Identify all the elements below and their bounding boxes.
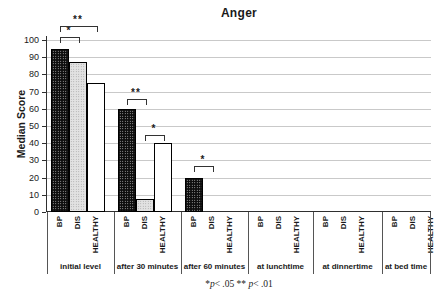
x-series-label: HEALTHY: [90, 216, 102, 262]
x-series-label: HEALTHY: [356, 216, 368, 262]
category-label: after 60 minutes: [182, 261, 247, 272]
footnote-text: < .01: [253, 279, 273, 289]
y-tick-label: 20: [17, 173, 39, 183]
gridline: [47, 74, 431, 75]
x-series-label: BP: [320, 216, 332, 262]
y-tick-label: 60: [17, 104, 39, 114]
bar-bp-2: [185, 178, 203, 212]
x-series-label: BP: [121, 216, 133, 262]
bar-healthy-0: [87, 83, 105, 212]
y-tick-label: 100: [17, 35, 39, 45]
y-tick-label: 70: [17, 87, 39, 97]
bar-bp-0: [51, 49, 69, 212]
x-series-label: DIS: [206, 216, 218, 262]
category-label: at bed time: [383, 261, 429, 272]
y-tick-label: 50: [17, 121, 39, 131]
y-axis-tick: [42, 212, 46, 213]
category-label: at dinnertime: [314, 261, 381, 272]
significance-label: **: [127, 88, 145, 98]
x-series-label: DIS: [72, 216, 84, 262]
x-series-label: BP: [188, 216, 200, 262]
x-series-label: BP: [54, 216, 66, 262]
gridline: [47, 57, 431, 58]
x-series-label: BP: [389, 216, 401, 262]
y-tick-label: 10: [17, 190, 39, 200]
x-series-label: HEALTHY: [425, 216, 437, 262]
x-series-label: BP: [255, 216, 267, 262]
category-label: at lunchtime: [249, 261, 312, 272]
category-separator: [181, 212, 182, 274]
footnote-text: < .05 **: [215, 279, 249, 289]
significance-label: *: [194, 155, 212, 165]
bar-dis-0: [69, 62, 87, 213]
bar-bp-1: [118, 109, 136, 212]
footnote: *p< .05 ** p< .01: [47, 279, 431, 289]
category-separator: [248, 212, 249, 274]
significance-bracket: [194, 166, 214, 172]
chart-title: Anger: [47, 6, 431, 20]
category-label: initial level: [48, 261, 113, 272]
significance-bracket: [60, 26, 98, 32]
significance-bracket: [60, 37, 80, 43]
category-label: after 30 minutes: [115, 261, 180, 272]
x-series-label: DIS: [338, 216, 350, 262]
significance-label: **: [60, 15, 96, 25]
significance-label: *: [145, 124, 163, 134]
bar-healthy-1: [154, 143, 172, 212]
x-series-label: DIS: [407, 216, 419, 262]
x-series-label: HEALTHY: [157, 216, 169, 262]
x-series-label: HEALTHY: [224, 216, 236, 262]
category-separator: [47, 212, 48, 274]
y-axis-line: [46, 36, 47, 212]
y-tick-label: 30: [17, 155, 39, 165]
bar-chart-figure: Anger Median Score 010203040506070809010…: [0, 0, 446, 297]
category-separator: [382, 212, 383, 274]
bar-dis-1: [136, 199, 154, 212]
category-separator: [114, 212, 115, 274]
y-tick-label: 80: [17, 69, 39, 79]
x-series-label: HEALTHY: [291, 216, 303, 262]
gridline: [47, 40, 431, 41]
category-separator: [313, 212, 314, 274]
category-separator: [430, 212, 431, 274]
y-tick-label: 90: [17, 52, 39, 62]
x-series-label: DIS: [139, 216, 151, 262]
significance-bracket: [145, 135, 165, 141]
x-series-label: DIS: [273, 216, 285, 262]
significance-bracket: [127, 99, 147, 105]
y-tick-label: 40: [17, 138, 39, 148]
y-tick-label: 0: [17, 207, 39, 217]
